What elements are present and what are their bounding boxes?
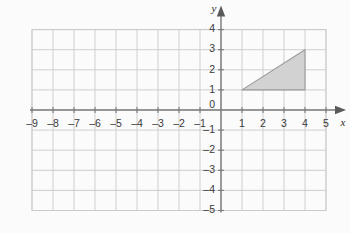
x-tick-label: –6 <box>89 117 101 129</box>
y-tick-label: –3 <box>203 163 215 175</box>
y-tick-label: –5 <box>203 203 215 215</box>
coordinate-grid-svg: –9–8–7–6–5–4–3–2–112345 4321–1–2–3–4–50 … <box>0 0 350 233</box>
y-tick-label: 3 <box>209 42 215 54</box>
y-tick-label: 2 <box>209 63 215 75</box>
x-axis-arrow-icon <box>335 106 346 114</box>
axis-names-group: xy <box>211 2 346 127</box>
x-tick-label: 5 <box>323 117 329 129</box>
x-axis-label: x <box>340 116 346 128</box>
y-axis-arrow-icon <box>217 6 225 17</box>
x-tick-label: –8 <box>47 117 59 129</box>
x-tick-label: –9 <box>26 117 38 129</box>
x-tick-label: –3 <box>152 117 164 129</box>
x-tick-label: 3 <box>281 117 287 129</box>
origin-label: 0 <box>209 98 215 110</box>
axes-group <box>30 6 346 213</box>
y-tick-label: –2 <box>203 143 215 155</box>
x-tick-label: 1 <box>239 117 245 129</box>
x-tick-label: 4 <box>302 117 308 129</box>
x-tick-labels-group: –9–8–7–6–5–4–3–2–112345 <box>26 117 329 129</box>
y-axis-label: y <box>211 2 217 14</box>
x-tick-label: –4 <box>131 117 143 129</box>
y-tick-label: –4 <box>203 183 215 195</box>
y-tick-label: 4 <box>209 22 215 34</box>
x-tick-label: 2 <box>260 117 266 129</box>
coordinate-plane-figure: –9–8–7–6–5–4–3–2–112345 4321–1–2–3–4–50 … <box>0 0 350 233</box>
x-tick-label: –7 <box>68 117 80 129</box>
y-tick-label: –1 <box>203 123 215 135</box>
x-tick-label: –2 <box>173 117 185 129</box>
x-tick-label: –5 <box>110 117 122 129</box>
y-tick-label: 1 <box>209 83 215 95</box>
